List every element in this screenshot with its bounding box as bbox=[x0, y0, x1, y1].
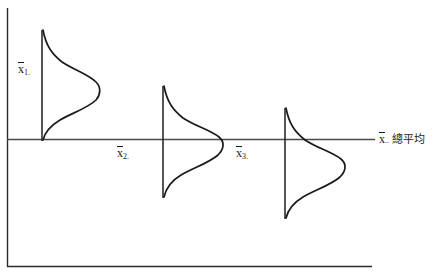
group-3-distribution bbox=[285, 108, 345, 219]
group-3-mean-label: x3. bbox=[236, 146, 248, 161]
group-2-distribution bbox=[163, 86, 223, 198]
group-1-xbar-symbol: x bbox=[18, 62, 24, 75]
distribution-diagram bbox=[0, 0, 440, 280]
figure-canvas: x1. x2. x3. x..總平均 bbox=[0, 0, 440, 280]
group-2-subscript: 2. bbox=[123, 152, 129, 161]
group-2-density-curve bbox=[164, 86, 223, 197]
group-2-xbar-symbol: x bbox=[117, 146, 123, 159]
group-3-density-curve bbox=[286, 108, 345, 218]
group-1-density-curve bbox=[43, 30, 100, 140]
grand-mean-label: x..總平均 bbox=[379, 132, 425, 145]
group-2-mean-label: x2. bbox=[117, 146, 129, 161]
group-1-mean-label: x1. bbox=[18, 62, 30, 77]
group-1-subscript: 1. bbox=[24, 68, 30, 77]
group-3-xbar-symbol: x bbox=[236, 146, 242, 159]
group-3-subscript: 3. bbox=[242, 152, 248, 161]
grand-mean-xbar-symbol: x bbox=[379, 132, 385, 145]
grand-mean-text: 總平均 bbox=[389, 134, 425, 145]
group-1-distribution bbox=[42, 30, 100, 141]
